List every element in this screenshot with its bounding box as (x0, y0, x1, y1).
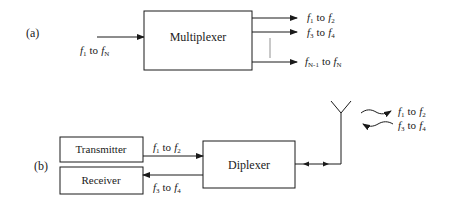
feed-arrow-right-icon (323, 162, 329, 167)
antenna-icon (331, 101, 351, 113)
output-label-1: f1tof2 (307, 11, 335, 25)
rx-signal-label: f3tof4 (153, 181, 181, 195)
input-label: f1tofN (80, 44, 109, 58)
multiplexer-label: Multiplexer (170, 30, 227, 44)
antenna-out-label: f1tof2 (398, 105, 426, 119)
diagram-canvas: (a) f1tofN Multiplexer f1tof2 f3tof4 fN-… (0, 0, 451, 202)
diagram-b: (b) Transmitter Receiver Diplexer f1tof2… (34, 101, 426, 195)
outgoing-wave-icon (361, 110, 391, 114)
diplexer-label: Diplexer (228, 158, 270, 172)
diagram-a-label: (a) (26, 26, 39, 40)
receiver-label: Receiver (81, 174, 120, 186)
output-label-3: fN-1tofN (305, 55, 342, 69)
incoming-wave-icon (363, 122, 393, 127)
diagram-a: (a) f1tofN Multiplexer f1tof2 f3tof4 fN-… (26, 11, 342, 70)
transmitter-label: Transmitter (76, 143, 127, 155)
output-label-2: f3tof4 (307, 26, 335, 40)
diagram-b-label: (b) (34, 159, 48, 173)
feed-arrow-left-icon (303, 162, 309, 167)
antenna-in-label: f3tof4 (398, 119, 426, 133)
tx-signal-label: f1tof2 (153, 141, 181, 155)
